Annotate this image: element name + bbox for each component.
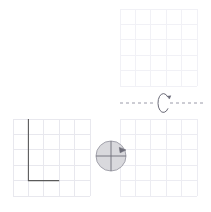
grid-top-right	[120, 9, 197, 86]
figure-root	[0, 0, 211, 212]
rotation-diagram-svg	[0, 0, 211, 212]
rotation-arrow	[158, 94, 171, 113]
rotation-arrow-head	[167, 96, 170, 99]
grid-bottom-right	[120, 119, 197, 196]
grid-bottom-left	[13, 119, 90, 196]
rotation-disc	[96, 141, 126, 171]
rotation-arrow-arc	[158, 94, 168, 113]
